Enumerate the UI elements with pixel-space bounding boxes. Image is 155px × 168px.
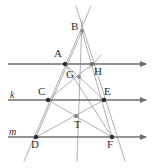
point-label-a: A [54,48,62,59]
point-label-b: B [71,21,78,32]
point-label-f: F [107,139,113,150]
point-label-e: E [104,86,111,97]
line-label-k: k [10,90,14,100]
point-c [46,98,50,102]
point-label-g: G [66,69,74,80]
point-e [102,98,106,102]
line-label-m: m [9,127,16,137]
point-label-c: C [38,86,45,97]
point-g [77,75,81,79]
point-label-d: D [31,139,39,150]
segment-d-to-e [36,100,104,137]
point-label-t: T [74,119,81,130]
point-label-h: H [94,66,102,77]
point-a [63,62,67,66]
geometry-diagram: B A H G C E T D F k m [0,0,155,168]
point-b [80,29,84,33]
